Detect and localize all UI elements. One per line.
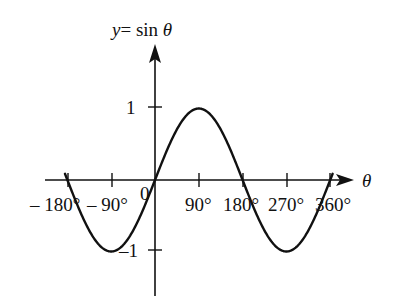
- x-axis-title: θ: [362, 170, 371, 191]
- origin-label: 0: [140, 183, 150, 204]
- tick-label-90: 90°: [185, 194, 212, 215]
- tick-label-180: 180°: [223, 194, 259, 215]
- tick-label-yneg1: –1: [118, 240, 138, 261]
- tick-label-270: 270°: [268, 194, 304, 215]
- sine-chart: y= sin θ θ 0 – 180° – 90° 90° 180° 270° …: [0, 0, 402, 307]
- y-axis-title: y= sin θ: [110, 19, 172, 40]
- tick-label-neg180: – 180°: [29, 194, 80, 215]
- tick-label-neg90: – 90°: [86, 194, 128, 215]
- tick-label-y1: 1: [126, 97, 136, 118]
- tick-label-360: 360°: [315, 194, 351, 215]
